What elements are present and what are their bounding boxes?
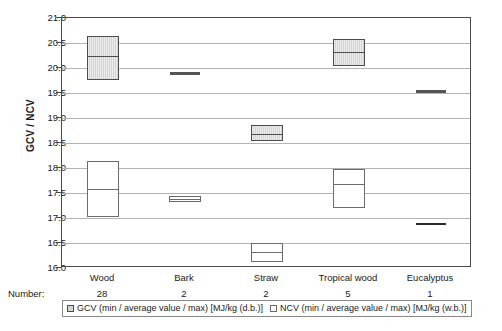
y-axis-tick-mark: [56, 267, 61, 268]
gcv-swatch-icon: [67, 305, 74, 312]
y-axis-title: GCV / NCV: [25, 56, 36, 196]
ncv-swatch-icon: [270, 305, 277, 312]
x-axis-category-label: Tropical wood: [319, 272, 378, 283]
gridline: [62, 93, 470, 94]
gcv-average-line: [333, 52, 365, 53]
ncv-average-line: [87, 189, 119, 190]
gcv-range-box: [251, 125, 283, 141]
plot-area: [61, 17, 471, 267]
ncv-range-box: [333, 169, 365, 208]
x-axis-category-label: Eucalyptus: [407, 272, 453, 283]
ncv-average-line: [333, 184, 365, 185]
x-axis-sample-count: 1: [427, 288, 432, 299]
gcv-value-marker: [170, 72, 200, 75]
legend-entry-gcv: GCV (min / average value / max) [MJ/kg (…: [67, 304, 263, 313]
x-axis-category-label: Straw: [254, 272, 278, 283]
x-axis-sample-count: 2: [263, 288, 268, 299]
chart-figure: GCV / NCV 21.020.520.019.519.018.518.017…: [0, 0, 502, 331]
gcv-average-line: [87, 56, 119, 57]
x-axis-category-label: Bark: [174, 272, 194, 283]
gridline: [62, 193, 470, 194]
gcv-range-box: [87, 36, 119, 80]
gridline: [62, 68, 470, 69]
x-axis-category-label: Wood: [90, 272, 115, 283]
gridline: [62, 218, 470, 219]
legend-label-gcv: GCV (min / average value / max) [MJ/kg (…: [77, 304, 263, 313]
gridline: [62, 43, 470, 44]
gridline: [62, 168, 470, 169]
x-axis-sample-count: 2: [181, 288, 186, 299]
gcv-average-line: [251, 134, 283, 135]
x-axis-sample-count: 28: [97, 288, 108, 299]
legend-label-ncv: NCV (min / average value / max) [MJ/kg (…: [280, 304, 467, 313]
legend-entry-ncv: NCV (min / average value / max) [MJ/kg (…: [270, 304, 467, 313]
ncv-value-marker: [416, 223, 446, 225]
ncv-average-line: [251, 252, 283, 253]
x-axis-sample-count: 5: [345, 288, 350, 299]
number-row-caption: Number:: [8, 288, 44, 299]
gridline: [62, 118, 470, 119]
ncv-average-line: [169, 199, 201, 200]
chart-legend: GCV (min / average value / max) [MJ/kg (…: [62, 300, 472, 317]
gcv-value-marker: [416, 90, 446, 93]
gridline: [62, 143, 470, 144]
